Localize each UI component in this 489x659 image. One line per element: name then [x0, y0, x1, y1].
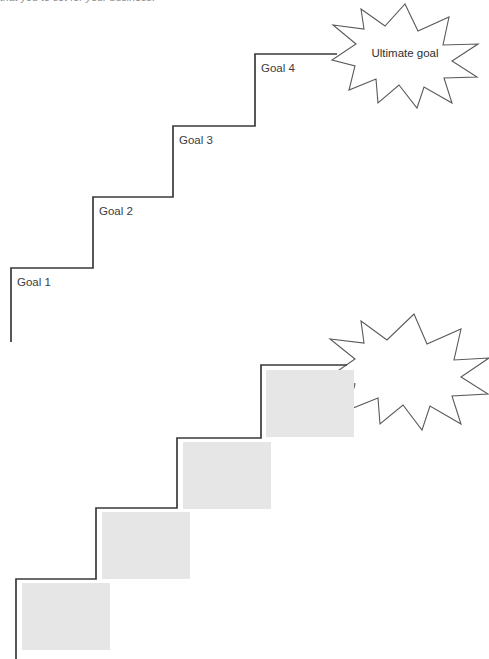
ultimate-goal-label: Ultimate goal: [371, 47, 438, 59]
diagram-canvas: that you to set for your business. Goal …: [0, 0, 489, 659]
top-step-label-2: Goal 2: [99, 205, 133, 217]
top-step-label-1: Goal 1: [17, 276, 51, 288]
bottom-staircase-group: [16, 314, 489, 659]
staircase-diagrams-svg: Goal 1 Goal 2 Goal 3 Goal 4 Ultimate goa…: [0, 0, 489, 659]
top-step-label-4: Goal 4: [261, 62, 295, 74]
bottom-placeholder-box-2[interactable]: [102, 512, 190, 579]
bottom-placeholder-box-4[interactable]: [266, 370, 354, 437]
top-staircase-path: [11, 54, 337, 342]
top-staircase-group: Goal 1 Goal 2 Goal 3 Goal 4 Ultimate goa…: [11, 4, 478, 342]
bottom-placeholder-box-1[interactable]: [22, 583, 110, 650]
bottom-placeholder-box-3[interactable]: [183, 442, 271, 509]
top-step-label-3: Goal 3: [179, 134, 213, 146]
